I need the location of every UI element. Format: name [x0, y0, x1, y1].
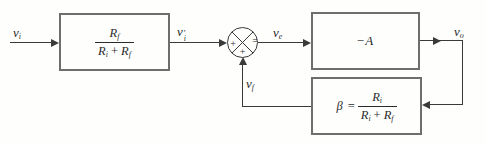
input-arrowhead-icon — [51, 39, 59, 47]
output-down-wire — [462, 40, 463, 105]
summing-right-sign: = — [252, 35, 258, 46]
var-Rf-sub: f — [391, 114, 393, 123]
feedback-amplifier-block-diagram: vi Rf Ri+Rf v′i + = + ve −A vo β = — [0, 0, 486, 144]
input-wire — [10, 42, 52, 43]
error-arrowhead-icon — [303, 39, 311, 47]
feedback-network-block: β = Ri Ri+Rf — [311, 77, 422, 135]
var-A: A — [365, 33, 374, 48]
input-divider-numerator: Rf — [108, 26, 122, 41]
feedback-fraction-numerator: Ri — [370, 90, 384, 105]
output-arrowhead-icon — [433, 37, 441, 45]
amplifier-block: −A — [311, 12, 420, 70]
input-divider-block: Rf Ri+Rf — [59, 13, 170, 71]
amplifier-gain-label: −A — [357, 33, 374, 49]
label-vo-sub: o — [460, 31, 464, 40]
var-Ri-sub: i — [380, 96, 382, 105]
label-vf-sub: f — [252, 83, 254, 92]
feedback-network-equation: β = Ri Ri+Rf — [336, 90, 396, 122]
input-divider-fraction: Rf Ri+Rf — [95, 26, 134, 58]
var-Rf2-sub: f — [129, 50, 131, 59]
feedback-wire-horizontal — [242, 106, 311, 107]
label-ve-sub: e — [279, 32, 283, 41]
error-wire — [258, 42, 304, 43]
divided-input-wire — [170, 42, 220, 43]
plus-operator: + — [108, 44, 121, 58]
minus-sign: − — [357, 33, 365, 48]
label-vo: vo — [454, 24, 464, 40]
label-vi-prime-stack: ′i — [184, 30, 186, 42]
feedback-arrowhead-icon — [239, 57, 247, 65]
label-vi-sub: i — [19, 32, 21, 41]
var-Rf2-base: R — [121, 44, 129, 58]
label-vi-prime-base: v — [177, 24, 183, 39]
plus-operator: + — [371, 108, 384, 122]
feedback-wire-vertical — [242, 64, 243, 106]
equals-sign: = — [345, 99, 358, 114]
summing-junction: + = + — [226, 26, 259, 59]
label-ve: ve — [273, 25, 282, 41]
label-vi-prime: v′i — [177, 24, 186, 43]
feedback-return-arrowhead-icon — [422, 101, 430, 109]
var-Ri-base: R — [372, 90, 380, 104]
input-divider-denominator: Ri+Rf — [95, 42, 134, 58]
feedback-fraction-denominator: Ri+Rf — [358, 106, 397, 122]
summing-left-sign: + — [230, 38, 236, 49]
summing-bottom-sign: + — [240, 46, 246, 57]
label-vf: vf — [246, 76, 254, 92]
var-Rf-sub: f — [117, 32, 119, 41]
feedback-return-wire — [429, 104, 462, 105]
beta-symbol: β — [336, 99, 342, 114]
var-Ri-base: R — [98, 44, 106, 58]
feedback-network-fraction: Ri Ri+Rf — [358, 90, 397, 122]
output-wire — [420, 40, 462, 41]
label-vi: vi — [13, 25, 21, 41]
